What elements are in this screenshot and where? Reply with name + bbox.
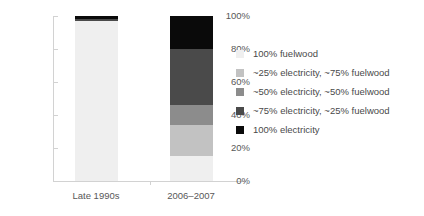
legend-label: 100% fuelwood [253, 48, 318, 59]
y-tick-20 [54, 148, 58, 149]
y-tick-0 [54, 181, 58, 182]
legend-item[interactable]: ~50% electricity, ~50% fuelwood [236, 82, 424, 101]
x-axis-category-2: 2006–2007 [136, 190, 246, 202]
legend-label: ~75% electricity, ~25% fuelwood [253, 105, 390, 116]
bar-2006-2007[interactable] [170, 16, 213, 181]
legend-swatch-icon [236, 50, 244, 58]
legend-item[interactable]: ~75% electricity, ~25% fuelwood [236, 101, 424, 120]
bar-segment [170, 156, 213, 181]
bar-late-1990s[interactable] [75, 16, 118, 181]
bar-segment [170, 105, 213, 125]
legend-item[interactable]: 100% electricity [236, 120, 424, 139]
legend-label: ~50% electricity, ~50% fuelwood [253, 86, 390, 97]
stacked-bar-chart: 100% 80% 60% 40% 20% 0% Late 1990s 2006–… [0, 0, 424, 216]
y-tick-60 [54, 82, 58, 83]
legend-label: 100% electricity [253, 124, 320, 135]
y-axis-line [53, 16, 54, 182]
bar-segment [170, 16, 213, 49]
legend-label: ~25% electricity, ~75% fuelwood [253, 67, 390, 78]
legend-item[interactable]: 100% fuelwood [236, 44, 424, 63]
legend: 100% fuelwood~25% electricity, ~75% fuel… [236, 44, 424, 139]
x-axis-divider [150, 181, 151, 185]
y-tick-80 [54, 49, 58, 50]
x-axis-end-tick [246, 181, 247, 185]
bar-segment [170, 125, 213, 156]
legend-swatch-icon [236, 126, 244, 134]
y-tick-40 [54, 115, 58, 116]
legend-swatch-icon [236, 107, 244, 115]
plot-area: 100% 80% 60% 40% 20% 0% Late 1990s 2006–… [0, 0, 250, 216]
x-axis-category-1: Late 1990s [41, 190, 151, 202]
legend-swatch-icon [236, 88, 244, 96]
y-tick-100 [54, 16, 58, 17]
legend-item[interactable]: ~25% electricity, ~75% fuelwood [236, 63, 424, 82]
bar-segment [75, 21, 118, 181]
bar-segment [170, 49, 213, 105]
legend-swatch-icon [236, 69, 244, 77]
